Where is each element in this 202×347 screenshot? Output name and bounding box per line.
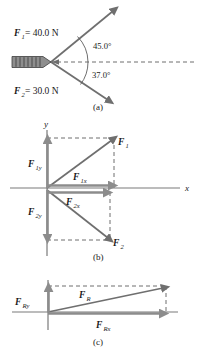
angle2-label: 37.0° bbox=[92, 70, 111, 80]
panel-a-force-diagram: F 1 = 40.0 N F 2 = 30.0 N 45.0° 37.0° (a… bbox=[0, 0, 202, 112]
panel-c-resultant-diagram: F R F Rx F Ry (c) bbox=[0, 262, 202, 347]
svg-text:Rx: Rx bbox=[103, 325, 111, 332]
f1-vector-arrow bbox=[51, 11, 113, 62]
panel-c-tag: (c) bbox=[93, 337, 103, 347]
svg-text:2y: 2y bbox=[36, 212, 42, 219]
svg-text:F: F bbox=[78, 290, 86, 300]
svg-text:F: F bbox=[27, 207, 35, 217]
svg-text:F: F bbox=[117, 137, 125, 147]
f1-label: F 1 bbox=[117, 137, 129, 149]
svg-text:F: F bbox=[27, 159, 35, 169]
physics-figure: F 1 = 40.0 N F 2 = 30.0 N 45.0° 37.0° (a… bbox=[0, 0, 202, 347]
f2y-label: F 2y bbox=[27, 207, 42, 219]
f1-vector-arrow bbox=[47, 140, 112, 188]
fry-label: F Ry bbox=[14, 297, 29, 309]
f2-label: F 2 = 30.0 N bbox=[13, 86, 59, 98]
svg-text:1x: 1x bbox=[81, 177, 87, 184]
panel-b-tag: (b) bbox=[93, 252, 104, 262]
svg-text:F: F bbox=[13, 86, 21, 96]
svg-text:F: F bbox=[72, 172, 80, 182]
svg-text:R: R bbox=[86, 295, 91, 302]
svg-text:1y: 1y bbox=[36, 164, 42, 171]
f1-label: F 1 = 40.0 N bbox=[13, 28, 59, 40]
frx-label: F Rx bbox=[95, 320, 111, 332]
svg-text:= 30.0 N: = 30.0 N bbox=[25, 86, 59, 96]
f2x-label: F 2x bbox=[65, 197, 80, 209]
svg-text:F: F bbox=[95, 320, 103, 330]
svg-text:Ry: Ry bbox=[22, 302, 30, 309]
resultant-label: F R bbox=[78, 290, 91, 302]
panel-a-tag: (a) bbox=[93, 102, 103, 112]
angle1-label: 45.0° bbox=[93, 41, 112, 51]
f1y-label: F 1y bbox=[27, 159, 42, 171]
svg-text:= 40.0 N: = 40.0 N bbox=[25, 28, 59, 38]
svg-text:1: 1 bbox=[126, 142, 129, 149]
block-icon bbox=[12, 57, 51, 68]
x-axis-label: x bbox=[184, 183, 189, 193]
angle1-arc bbox=[78, 37, 89, 63]
f2-vector-arrow bbox=[51, 62, 108, 100]
f1x-label: F 1x bbox=[72, 172, 87, 184]
f2-vector-arrow bbox=[47, 190, 108, 238]
f2-label: F 2 bbox=[112, 238, 125, 250]
panel-b-component-diagram: x y F 1 F 2 F 1x bbox=[0, 112, 202, 262]
svg-text:F: F bbox=[112, 238, 120, 248]
svg-text:2x: 2x bbox=[74, 202, 80, 209]
svg-text:2: 2 bbox=[121, 243, 125, 250]
resultant-vector-arrow bbox=[48, 288, 163, 312]
y-axis-label: y bbox=[43, 119, 48, 129]
svg-text:F: F bbox=[13, 28, 21, 38]
svg-text:F: F bbox=[65, 197, 73, 207]
angle2-arc bbox=[81, 62, 89, 85]
svg-text:F: F bbox=[14, 297, 22, 307]
